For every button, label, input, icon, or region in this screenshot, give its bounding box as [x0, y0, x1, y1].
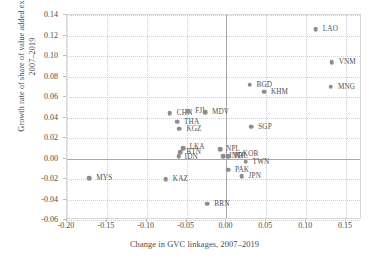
- data-point: [247, 82, 252, 87]
- gridline-vertical: [266, 15, 267, 218]
- gridline-horizontal: [67, 118, 360, 119]
- x-axis-label: Change in GVC linkages, 2007–2019: [0, 240, 389, 249]
- y-tick-label: 0.02: [18, 133, 58, 142]
- gridline-vertical: [67, 15, 68, 218]
- data-point: [239, 174, 244, 179]
- data-point-label: KHM: [271, 88, 288, 96]
- data-point: [203, 110, 208, 115]
- data-point-label: SGP: [258, 123, 272, 131]
- gridline-horizontal: [67, 56, 360, 57]
- y-tick-label: 0.00: [18, 153, 58, 162]
- data-point-label: MNG: [338, 83, 355, 91]
- data-point-label: PAK: [235, 166, 249, 174]
- scatter-chart: Growth rate of share of value added expo…: [0, 0, 389, 262]
- data-point: [176, 154, 181, 159]
- gridline-horizontal: [67, 77, 360, 78]
- zero-line-horizontal: [67, 159, 360, 160]
- y-tick-mark: [63, 14, 66, 15]
- data-point: [243, 159, 248, 164]
- y-tick-mark: [63, 158, 66, 159]
- data-point-label: VNM: [339, 58, 356, 66]
- y-tick-mark: [63, 137, 66, 138]
- data-point: [87, 176, 92, 181]
- data-point: [175, 119, 180, 124]
- y-tick-mark: [63, 55, 66, 56]
- gridline-horizontal: [67, 36, 360, 37]
- data-point-label: BGD: [257, 81, 273, 89]
- gridline-horizontal: [67, 15, 360, 16]
- zero-line-vertical: [226, 15, 227, 218]
- data-point: [313, 27, 318, 32]
- data-point: [218, 147, 223, 152]
- y-tick-label: -0.02: [18, 174, 58, 183]
- data-point-label: BRN: [214, 200, 229, 208]
- y-tick-label: 0.10: [18, 51, 58, 60]
- y-tick-label: 0.14: [18, 10, 58, 19]
- data-point-label: LAO: [323, 25, 338, 33]
- y-tick-mark: [63, 117, 66, 118]
- y-tick-label: 0.12: [18, 30, 58, 39]
- gridline-horizontal: [67, 138, 360, 139]
- y-tick-label: -0.04: [18, 194, 58, 203]
- data-point: [186, 109, 191, 114]
- gridline-vertical: [346, 15, 347, 218]
- gridline-vertical: [147, 15, 148, 218]
- data-point-label: KAZ: [173, 175, 188, 183]
- data-point-label: KGZ: [186, 125, 201, 133]
- data-point: [329, 60, 334, 65]
- data-point: [164, 177, 169, 182]
- y-tick-mark: [63, 178, 66, 179]
- data-point-label: IDN: [185, 153, 198, 161]
- x-tick-label: 0.15: [322, 221, 368, 230]
- data-point: [235, 152, 240, 157]
- data-point-label: JPN: [249, 172, 261, 180]
- y-tick-label: 0.04: [18, 112, 58, 121]
- data-point-label: MYS: [96, 174, 112, 182]
- plot-area: LAOVNMMNGBGDKHMSGPCHNFJIMDVTHAKGZLKABTNI…: [66, 14, 361, 219]
- data-point: [226, 154, 231, 159]
- y-tick-mark: [63, 76, 66, 77]
- y-tick-label: 0.08: [18, 71, 58, 80]
- y-tick-label: 0.06: [18, 92, 58, 101]
- gridline-vertical: [107, 15, 108, 218]
- data-point: [226, 167, 231, 172]
- data-point: [249, 124, 254, 129]
- data-point: [262, 90, 267, 95]
- y-tick-mark: [63, 199, 66, 200]
- data-point-label: TWN: [253, 158, 270, 166]
- data-point: [329, 84, 334, 89]
- y-tick-mark: [63, 35, 66, 36]
- data-point: [168, 111, 173, 116]
- y-tick-mark: [63, 96, 66, 97]
- gridline-horizontal: [67, 97, 360, 98]
- data-point: [205, 201, 210, 206]
- gridline-vertical: [306, 15, 307, 218]
- data-point: [177, 126, 182, 131]
- data-point-label: MDV: [212, 108, 229, 116]
